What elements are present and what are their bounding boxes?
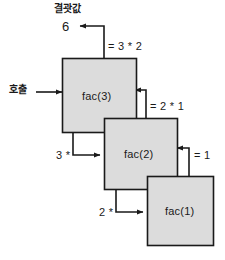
call-multiplier-2: 2 * <box>99 207 113 218</box>
call-arrow-fac3-to-fac2 <box>73 133 100 155</box>
frame-label-fac3: fac(3) <box>82 91 111 102</box>
return-expr-fac3: = 3 * 2 <box>108 41 142 52</box>
return-arrow-fac3 <box>80 26 104 58</box>
result-value: 6 <box>62 20 69 33</box>
frame-label-fac2: fac(2) <box>124 149 153 160</box>
recursion-diagram: 결괏값 6 호출 = 3 * 2 = 2 * 1 = 1 3 * 2 * fac… <box>0 0 225 260</box>
call-label: 호출 <box>9 85 27 95</box>
return-expr-fac2: = 2 * 1 <box>150 101 184 112</box>
return-arrow-fac1 <box>177 148 189 176</box>
frame-label-fac1: fac(1) <box>165 206 194 217</box>
result-title-label: 결괏값 <box>54 4 81 14</box>
return-expr-fac1: = 1 <box>194 150 211 161</box>
diagram-vector-layer <box>0 0 225 260</box>
call-multiplier-3: 3 * <box>56 150 70 161</box>
call-arrow-fac2-to-fac1 <box>116 190 143 212</box>
